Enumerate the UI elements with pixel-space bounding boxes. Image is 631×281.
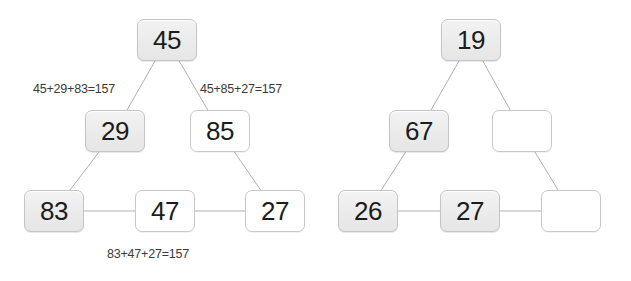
- edge-right-mid-left-to-right-bottom-left: [381, 152, 405, 190]
- node-right-bottom-left: 26: [338, 190, 398, 232]
- node-right-bottom-mid: 27: [440, 190, 500, 232]
- edge-left-mid-left-to-left-bottom-left: [70, 152, 99, 190]
- edge-right-mid-right-to-right-bottom-right: [535, 152, 558, 190]
- edge-right-apex-to-right-mid-left: [431, 61, 459, 110]
- sum-label-left-side-sum: 45+29+83=157: [33, 82, 115, 96]
- node-left-mid-left: 29: [85, 110, 145, 152]
- node-left-bottom-left: 83: [24, 190, 84, 232]
- node-left-bottom-right[interactable]: 27: [245, 190, 305, 232]
- node-right-mid-right[interactable]: [492, 110, 552, 152]
- node-right-bottom-right[interactable]: [541, 190, 601, 232]
- sum-label-right-side-sum: 45+85+27=157: [200, 82, 282, 96]
- node-left-mid-right[interactable]: 85: [190, 110, 250, 152]
- node-right-mid-left: 67: [389, 110, 449, 152]
- edge-right-apex-to-right-mid-right: [483, 61, 510, 110]
- magic-triangle-worksheet: 45298583472719672627 45+29+83=15745+85+2…: [0, 0, 631, 281]
- node-left-bottom-mid[interactable]: 47: [135, 190, 195, 232]
- node-right-apex: 19: [441, 19, 501, 61]
- edge-left-mid-right-to-left-bottom-right: [234, 152, 260, 190]
- node-left-apex: 45: [137, 19, 197, 61]
- edge-left-apex-to-left-mid-left: [127, 61, 155, 110]
- sum-label-bottom-side-sum: 83+47+27=157: [107, 247, 189, 261]
